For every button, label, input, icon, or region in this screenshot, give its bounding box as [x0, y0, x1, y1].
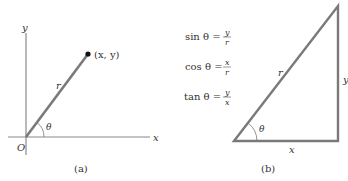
y-axis-label: y: [21, 22, 28, 33]
panel-a: y x O (x, y) r θ (a): [8, 22, 159, 174]
right-triangle: [234, 6, 338, 141]
formula-denominator: x: [225, 98, 230, 107]
formula-fn: sin θ =: [185, 31, 221, 42]
point-label: (x, y): [94, 49, 120, 60]
formula-fn: cos θ =: [185, 61, 223, 72]
caption-b: (b): [261, 163, 275, 174]
caption-a: (a): [74, 163, 88, 174]
point-xy: [85, 51, 90, 56]
formula-fn: tan θ =: [184, 91, 221, 102]
adjacent-label: x: [289, 144, 295, 155]
diagram-canvas: y x O (x, y) r θ (a) r x y θ (b) sin θ =…: [0, 0, 348, 181]
angle-arc: [37, 123, 44, 138]
origin-label: O: [17, 142, 25, 153]
formula-cos: cos θ = x r: [185, 58, 231, 77]
formula-numerator: y: [224, 88, 230, 97]
angle-label: θ: [46, 122, 52, 132]
formula-numerator: x: [225, 58, 230, 67]
angle-label: θ: [259, 124, 265, 134]
formula-tan: tan θ = y x: [184, 88, 231, 107]
opposite-label: y: [342, 74, 348, 85]
formula-denominator: r: [225, 68, 230, 77]
formula-numerator: y: [224, 28, 230, 37]
panel-b: r x y θ (b) sin θ = y r cos θ = x r tan …: [184, 6, 348, 174]
angle-arc: [248, 123, 257, 141]
x-axis-label: x: [153, 132, 159, 143]
formula-sin: sin θ = y r: [185, 28, 231, 47]
radius-line: [26, 54, 88, 137]
formula-denominator: r: [225, 38, 230, 47]
